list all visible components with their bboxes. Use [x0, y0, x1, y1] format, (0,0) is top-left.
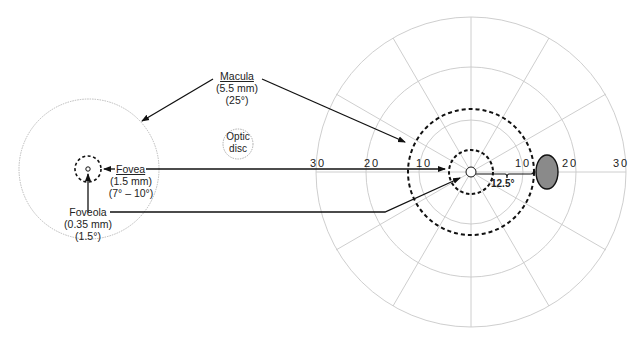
optic-disc-line2: disc [220, 143, 256, 155]
tick-right-20: 20 [562, 157, 578, 169]
foveola-size: (0.35 mm) [60, 218, 116, 230]
macula-angle: (25°) [208, 94, 266, 106]
optic-disc-label: Optic disc [220, 131, 256, 155]
fovea-size: (1.5 mm) [106, 175, 156, 187]
brace-12-5 [476, 169, 534, 178]
macula-arrow-right [262, 79, 405, 142]
foveola-dot [86, 167, 90, 171]
foveola-name: Foveola [60, 206, 116, 218]
macula-size: (5.5 mm) [208, 82, 266, 94]
optic-disc-line1: Optic [220, 131, 256, 143]
foveola-angle: (1.5°) [60, 230, 116, 242]
tick-left-30: 30 [310, 157, 326, 169]
macula-name: Macula [208, 70, 266, 82]
fovea-name: Fovea [106, 163, 156, 175]
tick-right-10: 10 [515, 157, 531, 169]
foveola-arrow-right [110, 178, 460, 212]
tick-right-30: 30 [613, 157, 629, 169]
fovea-label: Fovea (1.5 mm) (7° – 10°) [106, 163, 156, 199]
fovea-angle: (7° – 10°) [106, 187, 156, 199]
blind-spot [536, 155, 558, 189]
foveola-field-dot [466, 167, 476, 177]
macula-label: Macula (5.5 mm) (25°) [208, 70, 266, 106]
tick-left-10: 10 [416, 157, 432, 169]
foveola-label: Foveola (0.35 mm) (1.5°) [60, 206, 116, 242]
brace-label: 12.5° [491, 178, 514, 190]
macula-arrow-left [142, 79, 213, 121]
tick-left-20: 20 [364, 157, 380, 169]
retina-visual-field-diagram [0, 0, 644, 341]
